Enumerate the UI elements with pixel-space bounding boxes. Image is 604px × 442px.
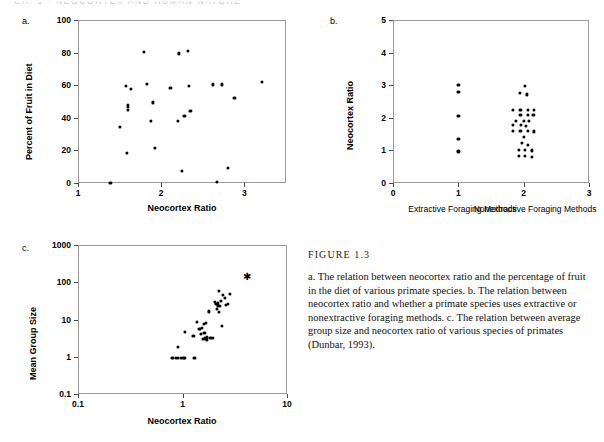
panel-b-y-tick-label: 2 bbox=[381, 113, 386, 123]
panel-a-x-tick-label: 3 bbox=[242, 188, 247, 198]
panel-b-y-tick-label: 5 bbox=[381, 15, 386, 25]
panel-c-highlight-star-marker: ✱ bbox=[243, 273, 251, 281]
panel-c-x-tick bbox=[287, 394, 288, 398]
panel-a-x-axis-title: Neocortex Ratio bbox=[147, 203, 216, 213]
panel-a-letter: a. bbox=[22, 16, 30, 26]
panel-b-y-axis-title: Neocortex Ratio bbox=[345, 81, 355, 150]
panel-a-y-tick-label: 60 bbox=[62, 80, 71, 90]
panel-c-x-tick bbox=[183, 394, 184, 398]
panel-a-x-tick bbox=[78, 183, 79, 187]
figure-caption-block: FIGURE 1.3 a. The relation between neoco… bbox=[308, 249, 596, 352]
panel-a-plot-area bbox=[78, 20, 286, 183]
panel-a-y-tick-label: 20 bbox=[62, 145, 71, 155]
page-running-header: CH. 1 · NEOCORTEX AND HUMAN NATURE bbox=[14, 0, 241, 6]
panel-a-y-tick bbox=[74, 53, 78, 54]
panel-a-x-tick-label: 2 bbox=[159, 188, 164, 198]
panel-a-x-tick-label: 1 bbox=[76, 188, 81, 198]
panel-c-y-tick bbox=[74, 245, 78, 246]
panel-c-y-axis-title: Mean Group Size bbox=[28, 307, 38, 380]
panel-b-y-tick bbox=[389, 85, 393, 86]
panel-c-y-tick bbox=[74, 282, 78, 283]
panel-a-y-tick bbox=[74, 118, 78, 119]
panel-c-y-tick-label: 0.1 bbox=[59, 389, 71, 399]
panel-b-category-label: Nonextractive Foraging Methods bbox=[474, 203, 574, 215]
panel-a-y-tick-label: 80 bbox=[62, 48, 71, 58]
panel-b-y-tick bbox=[389, 20, 393, 21]
panel-a-x-tick bbox=[161, 183, 162, 187]
panel-c-y-tick bbox=[74, 320, 78, 321]
panel-c-letter: c. bbox=[22, 243, 29, 253]
panel-c-y-tick-label: 1000 bbox=[52, 240, 71, 250]
panel-a-y-tick-label: 100 bbox=[57, 15, 71, 25]
panel-b-y-tick bbox=[389, 53, 393, 54]
panel-b-y-tick bbox=[389, 150, 393, 151]
panel-b-y-tick-label: 3 bbox=[381, 80, 386, 90]
panel-a-y-tick bbox=[74, 20, 78, 21]
panel-c-x-tick-label: 1 bbox=[180, 399, 185, 409]
panel-a-x-tick bbox=[244, 183, 245, 187]
panel-b-x-tick bbox=[393, 183, 394, 187]
panel-b-x-tick bbox=[589, 183, 590, 187]
panel-a-y-tick-label: 0 bbox=[66, 178, 71, 188]
panel-b-y-tick bbox=[389, 118, 393, 119]
panel-a-y-tick bbox=[74, 150, 78, 151]
panel-c-y-tick-label: 1 bbox=[66, 352, 71, 362]
figure-caption-title: FIGURE 1.3 bbox=[308, 249, 596, 260]
panel-c-y-tick-label: 100 bbox=[57, 277, 71, 287]
panel-a-data-point bbox=[109, 181, 112, 184]
panel-a-y-tick bbox=[74, 85, 78, 86]
panel-b-x-tick-label: 2 bbox=[521, 188, 526, 198]
panel-a-y-axis-title: Percent of Fruit in Diet bbox=[24, 63, 34, 160]
panel-b-x-tick-label: 3 bbox=[587, 188, 592, 198]
panel-b-y-tick-label: 1 bbox=[381, 145, 386, 155]
panel-b-letter: b. bbox=[330, 16, 338, 26]
panel-b-x-tick bbox=[524, 183, 525, 187]
panel-b-y-tick-label: 4 bbox=[381, 48, 386, 58]
panel-a-y-tick-label: 40 bbox=[62, 113, 71, 123]
panel-c-x-tick-label: 0.1 bbox=[72, 399, 84, 409]
panel-c-x-tick-label: 10 bbox=[282, 399, 291, 409]
panel-c-x-axis-title: Neocortex Ratio bbox=[147, 416, 216, 426]
panel-b-x-tick-label: 0 bbox=[391, 188, 396, 198]
figure-caption-text: a. The relation between neocortex ratio … bbox=[308, 270, 596, 352]
panel-c-y-tick-label: 10 bbox=[62, 315, 71, 325]
panel-c-plot-area bbox=[78, 245, 287, 394]
panel-c-x-tick bbox=[78, 394, 79, 398]
panel-b-y-tick-label: 0 bbox=[381, 178, 386, 188]
panel-b-x-tick-label: 1 bbox=[456, 188, 461, 198]
panel-c-y-tick bbox=[74, 357, 78, 358]
panel-b-plot-area bbox=[393, 20, 589, 183]
panel-b-x-tick bbox=[458, 183, 459, 187]
